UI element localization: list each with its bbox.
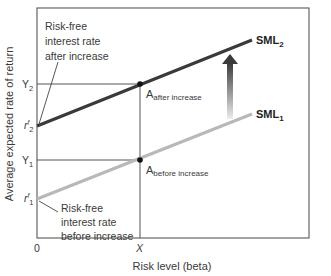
rf-after-label-line3: after increase [45, 50, 109, 62]
y1-tick-label: Y1 [22, 154, 33, 169]
sml1-label: SML1 [256, 108, 284, 123]
rf2-tick-label: rf2 [24, 119, 33, 134]
point-a-before [137, 157, 143, 163]
y-axis-title: Average expected rate of return [3, 47, 15, 202]
sml2-label: SML2 [256, 34, 284, 49]
rf-before-label-line3: before increase [61, 230, 134, 242]
rf-before-label-line1: Risk-free [61, 202, 103, 214]
x-axis-title: Risk level (beta) [133, 260, 212, 272]
rf-after-label-line2: interest rate [45, 35, 101, 47]
rf1-tick-label: rf1 [24, 192, 33, 207]
a-before-label: Abefore increase [146, 164, 209, 178]
x-tick-label: X [135, 242, 144, 254]
y2-tick-label: Y2 [22, 78, 33, 93]
sml-chart: Risk-free interest rate after increase R… [0, 0, 331, 276]
rf-after-pointer [39, 62, 58, 124]
x-origin-label: 0 [34, 242, 40, 254]
point-a-after [137, 81, 143, 87]
sml1-line [37, 114, 252, 199]
shift-up-arrow-icon [222, 54, 238, 119]
rf-before-pointer [39, 201, 58, 212]
rf-after-label-line1: Risk-free [45, 20, 87, 32]
rf-before-label-line2: interest rate [61, 216, 117, 228]
a-after-label: Aafter increase [146, 88, 202, 102]
